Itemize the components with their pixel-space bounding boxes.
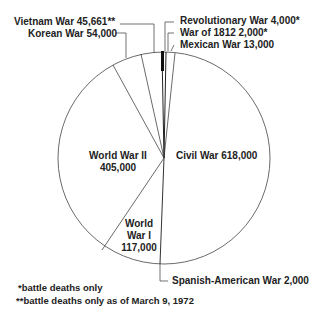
label-ww2: World War II 405,000 [80, 150, 156, 174]
footnote-1: *battle deaths only [18, 282, 102, 293]
label-korean: Korean War 54,000 [28, 28, 117, 40]
label-war-1812: War of 1812 2,000* [180, 27, 267, 39]
label-vietnam: Vietnam War 45,661** [14, 16, 115, 28]
label-civil: Civil War 618,000 [176, 150, 257, 162]
footnote-2: **battle deaths only as of March 9, 1972 [16, 295, 194, 306]
label-ww1: World War I 117,000 [118, 218, 160, 254]
label-mexican: Mexican War 13,000 [180, 39, 274, 51]
label-spanish-american: Spanish-American War 2,000 [172, 275, 309, 287]
label-revolutionary: Revolutionary War 4,000* [180, 15, 300, 27]
